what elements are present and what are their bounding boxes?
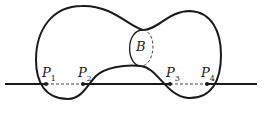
point-p4-label: P4 xyxy=(201,66,215,83)
point-p1-label: P1 xyxy=(42,66,56,83)
p3-sub: 3 xyxy=(175,74,180,83)
point-p3-dot xyxy=(168,82,172,86)
point-p3-label: P3 xyxy=(166,66,180,83)
p4-sub: 4 xyxy=(210,74,215,83)
p3-name: P xyxy=(166,65,175,80)
point-p1-dot xyxy=(44,82,48,86)
point-p2-label: P2 xyxy=(78,66,92,83)
point-p4-dot xyxy=(205,82,209,86)
diagram-canvas: B P1 P2 P3 P4 xyxy=(0,0,265,116)
p1-name: P xyxy=(42,65,51,80)
p1-sub: 1 xyxy=(51,74,56,83)
p4-name: P xyxy=(201,65,210,80)
point-p2-dot xyxy=(81,82,85,86)
p2-name: P xyxy=(78,65,87,80)
p2-sub: 2 xyxy=(87,74,92,83)
diagram-svg xyxy=(0,0,265,116)
region-b-label: B xyxy=(136,40,146,53)
closed-curve xyxy=(36,6,221,99)
